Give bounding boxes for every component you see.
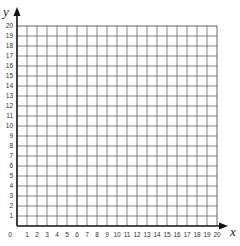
y-tick-label: 17 <box>6 52 14 59</box>
x-tick-label: 4 <box>55 231 59 238</box>
y-tick-label: 8 <box>9 142 13 149</box>
y-tick-label: 11 <box>6 112 13 119</box>
y-tick-label: 12 <box>6 102 14 109</box>
x-tick-label: 2 <box>35 231 39 238</box>
y-tick-label: 6 <box>9 162 13 169</box>
y-tick-label: 18 <box>6 42 14 49</box>
x-tick-label: 10 <box>113 231 121 238</box>
x-tick-labels: 01234567891011121314151617181920 <box>8 231 221 238</box>
grid-lines <box>17 26 217 226</box>
x-tick-label: 8 <box>95 231 99 238</box>
x-axis-arrow-icon <box>219 223 228 230</box>
x-tick-label: 0 <box>8 231 12 238</box>
y-tick-label: 13 <box>6 92 14 99</box>
y-tick-label: 5 <box>9 172 13 179</box>
x-tick-label: 7 <box>85 231 89 238</box>
x-axis-label: x <box>229 224 236 239</box>
x-tick-label: 15 <box>163 231 171 238</box>
x-tick-label: 17 <box>183 231 191 238</box>
x-tick-label: 18 <box>193 231 201 238</box>
x-tick-label: 1 <box>25 231 29 238</box>
y-axis-label: y <box>1 4 9 19</box>
y-tick-label: 2 <box>9 202 13 209</box>
y-tick-label: 19 <box>6 32 14 39</box>
x-tick-label: 3 <box>45 231 49 238</box>
x-tick-label: 11 <box>124 231 131 238</box>
y-axis-arrow-icon <box>14 7 21 16</box>
x-tick-label: 9 <box>105 231 109 238</box>
x-tick-label: 5 <box>65 231 69 238</box>
y-tick-labels: 1234567891011121314151617181920 <box>6 22 14 219</box>
y-tick-label: 3 <box>9 192 13 199</box>
y-tick-label: 10 <box>6 122 14 129</box>
y-tick-label: 15 <box>6 72 14 79</box>
coordinate-grid-chart: 01234567891011121314151617181920 1234567… <box>0 0 240 246</box>
x-tick-label: 12 <box>133 231 141 238</box>
x-tick-label: 14 <box>153 231 161 238</box>
y-tick-label: 4 <box>9 182 13 189</box>
y-tick-label: 20 <box>6 22 14 29</box>
x-tick-label: 6 <box>75 231 79 238</box>
x-tick-label: 16 <box>173 231 181 238</box>
x-tick-label: 20 <box>213 231 221 238</box>
x-tick-label: 13 <box>143 231 151 238</box>
y-tick-label: 1 <box>9 212 13 219</box>
x-tick-label: 19 <box>203 231 211 238</box>
y-tick-label: 7 <box>9 152 13 159</box>
y-tick-label: 9 <box>9 132 13 139</box>
y-tick-label: 16 <box>6 62 14 69</box>
y-tick-label: 14 <box>6 82 14 89</box>
